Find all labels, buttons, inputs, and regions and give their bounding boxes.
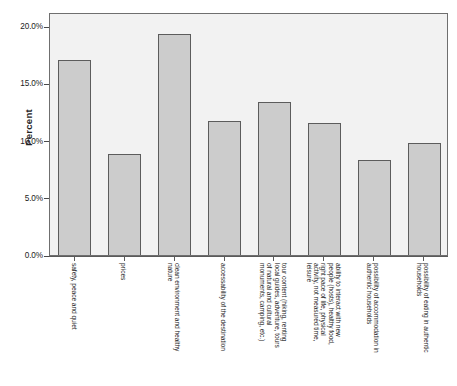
y-axis-tick-label: 20.0% [20,21,43,33]
y-axis-tick-label: 0.0% [25,250,43,262]
x-axis-tick-label-line: prices [120,263,127,280]
y-axis-ticks: 0.0%5.0%10.0%15.0%20.0% [0,0,49,386]
x-axis-tick-label-line: leisure [305,263,312,345]
x-axis-tick-mark [323,256,324,261]
x-axis-tick-label-line: possibility of eating in authentic [423,263,430,353]
x-axis-tick-label-line: ability to interact with new [334,263,341,345]
y-axis-tick-label: 15.0% [20,78,43,90]
y-axis-tick: 5.0% [0,193,49,205]
y-axis-tick-label: 5.0% [25,193,43,205]
y-axis-tick: 10.0% [0,136,49,148]
x-axis-tick-label-line: local guides, adventure, tours [273,263,280,348]
x-axis-tick-label-text: clean environment and healthynature [166,263,181,351]
y-axis-tick: 0.0% [0,250,49,262]
bar [158,34,191,255]
bar [208,121,241,255]
bar [108,154,141,255]
bar [408,143,441,255]
x-axis-tick-mark [124,256,125,261]
bar-chart: Percent 0.0%5.0%10.0%15.0%20.0% safety, … [0,0,457,386]
x-axis-tick-label-text: prices [120,263,127,280]
x-axis-tick-label-line: accessability of the destination [220,263,227,351]
x-axis-tick-label-line: monuments, camping, etc.) [259,263,266,348]
bars-container [50,14,447,255]
x-axis-tick-label-text: ability to interact with newpeople (host… [305,263,341,345]
plot-area [49,13,448,256]
x-axis-tick-label-line: people (hosts), healthy food, [327,263,334,345]
x-axis-tick-label-line: activity, not measured time, [312,263,319,345]
x-axis-tick-mark [423,256,424,261]
x-axis-tick-mark [373,256,374,261]
y-axis-tick-label: 10.0% [20,136,43,148]
x-axis-tick-label-text: possibility of eating in authentichouseh… [416,263,431,353]
x-axis-tick-mark [74,256,75,261]
x-axis-tick-label-line: right pace of life, physical [320,263,327,345]
x-axis-tick-label-text: tour content (hiking, rentinglocal guide… [259,263,288,348]
y-axis-tick: 20.0% [0,21,49,33]
x-axis-tick-label-line: safety, peace and quiet [70,263,77,330]
x-axis-tick-label-text: accessability of the destination [220,263,227,351]
x-axis-tick-mark [224,256,225,261]
x-axis-tick-label-line: possibility of accommodation in [373,263,380,353]
x-axis-tick-mark [174,256,175,261]
bar [308,123,341,255]
x-axis-tick-label-text: safety, peace and quiet [70,263,77,330]
x-axis-tick-mark [273,256,274,261]
x-axis-tick-label-line: of natural and cultural [266,263,273,348]
x-axis-ticks-and-labels: safety, peace and quietpricesclean envir… [49,256,448,386]
x-axis-tick-label-line: tour content (hiking, renting [281,263,288,348]
bar [58,60,91,255]
x-axis-tick-label-line: nature [166,263,173,351]
bar [358,160,391,255]
x-axis-tick-label-line: clean environment and healthy [174,263,181,351]
x-axis-tick-label-line: households [416,263,423,353]
x-axis-tick-label-text: possibility of accommodation inauthentic… [366,263,381,353]
bar [258,102,291,255]
y-axis-tick: 15.0% [0,78,49,90]
